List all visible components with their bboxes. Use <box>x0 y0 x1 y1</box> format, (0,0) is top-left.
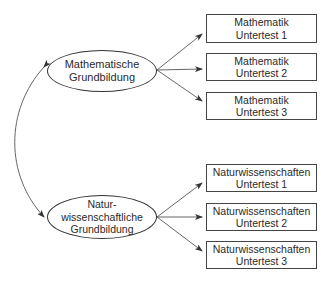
indicator-subtest: Untertest 2 <box>236 217 287 230</box>
latent-science-ellipse: Natur- wissenschaftliche Grundbildung <box>47 195 157 239</box>
loading-arrow-math-1 <box>157 34 202 70</box>
indicator-title: Naturwissenschaften <box>213 243 310 256</box>
loading-arrow-science-3 <box>157 217 202 251</box>
indicator-science-2: Naturwissenschaften Untertest 2 <box>206 203 317 231</box>
indicator-subtest: Untertest 3 <box>236 255 287 268</box>
indicator-title: Mathematik <box>234 94 288 107</box>
latent-science-label-line1: Natur- <box>61 198 143 211</box>
indicator-math-3: Mathematik Untertest 3 <box>206 92 317 120</box>
indicator-title: Naturwissenschaften <box>213 166 310 179</box>
latent-science-label-line3: Grundbildung <box>61 223 143 236</box>
indicator-math-2: Mathematik Untertest 2 <box>206 53 317 81</box>
latent-science-label-line2: wissenschaftliche <box>61 211 143 224</box>
indicator-title: Mathematik <box>234 55 288 68</box>
loading-arrow-math-3 <box>157 70 202 101</box>
indicator-subtest: Untertest 1 <box>236 178 287 191</box>
latent-math-label-line1: Mathematische <box>65 58 140 71</box>
latent-math-label-line2: Grundbildung <box>65 71 140 84</box>
indicator-title: Naturwissenschaften <box>213 205 310 218</box>
indicator-math-1: Mathematik Untertest 1 <box>206 14 317 43</box>
indicator-science-1: Naturwissenschaften Untertest 1 <box>206 164 317 192</box>
indicator-subtest: Untertest 3 <box>236 106 287 119</box>
indicator-subtest: Untertest 2 <box>236 67 287 80</box>
indicator-science-3: Naturwissenschaften Untertest 3 <box>206 241 317 269</box>
correlation-arrow <box>15 67 44 217</box>
latent-math-ellipse: Mathematische Grundbildung <box>47 50 157 92</box>
indicator-title: Mathematik <box>234 16 288 29</box>
loading-arrow-math-2 <box>157 69 202 70</box>
loading-arrow-science-1 <box>157 183 202 217</box>
indicator-subtest: Untertest 1 <box>236 29 287 42</box>
